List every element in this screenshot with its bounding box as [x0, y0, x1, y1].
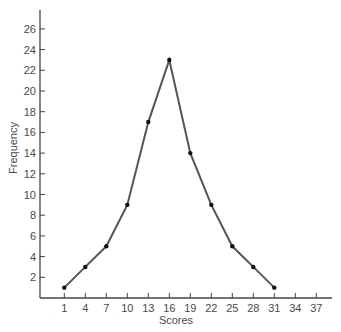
x-tick-label: 10 — [121, 302, 133, 314]
data-point — [188, 151, 192, 155]
x-tick-label: 25 — [226, 302, 238, 314]
y-ticks: 2468101214161820222426 — [24, 23, 45, 283]
x-axis-label: Scores — [159, 314, 194, 326]
data-point — [167, 58, 171, 62]
y-tick-label: 20 — [24, 85, 36, 97]
data-point — [62, 285, 66, 289]
y-tick-label: 16 — [24, 126, 36, 138]
data-point — [209, 203, 213, 207]
y-tick-label: 2 — [30, 271, 36, 283]
y-tick-label: 26 — [24, 23, 36, 35]
y-axis-label: Frequency — [7, 122, 19, 174]
frequency-line — [64, 60, 274, 288]
data-point — [125, 203, 129, 207]
data-point-markers — [62, 58, 276, 290]
data-point — [83, 265, 87, 269]
x-tick-label: 31 — [268, 302, 280, 314]
y-tick-label: 18 — [24, 106, 36, 118]
y-tick-label: 12 — [24, 168, 36, 180]
x-tick-label: 1 — [61, 302, 67, 314]
data-point — [146, 120, 150, 124]
axes — [40, 10, 332, 298]
x-tick-label: 4 — [82, 302, 88, 314]
data-point — [251, 265, 255, 269]
x-tick-label: 22 — [205, 302, 217, 314]
data-point — [230, 244, 234, 248]
x-tick-label: 28 — [247, 302, 259, 314]
x-tick-label: 34 — [289, 302, 301, 314]
x-tick-label: 37 — [310, 302, 322, 314]
x-ticks: 14710131619222528313437 — [61, 293, 322, 314]
y-tick-label: 10 — [24, 189, 36, 201]
x-tick-label: 7 — [103, 302, 109, 314]
chart-svg: 2468101214161820222426 14710131619222528… — [0, 0, 341, 332]
y-tick-label: 24 — [24, 44, 36, 56]
y-tick-label: 4 — [30, 251, 36, 263]
frequency-polygon-chart: 2468101214161820222426 14710131619222528… — [0, 0, 341, 332]
y-tick-label: 22 — [24, 64, 36, 76]
y-tick-label: 6 — [30, 230, 36, 242]
x-tick-label: 13 — [142, 302, 154, 314]
y-tick-label: 14 — [24, 147, 36, 159]
x-tick-label: 19 — [184, 302, 196, 314]
y-tick-label: 8 — [30, 209, 36, 221]
x-tick-label: 16 — [163, 302, 175, 314]
data-point — [104, 244, 108, 248]
data-point — [272, 285, 276, 289]
